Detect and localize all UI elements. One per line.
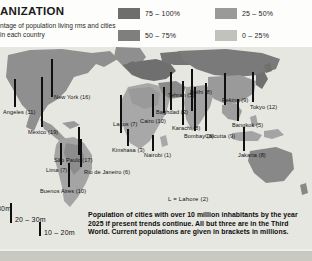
figure-header: ANIZATION ntage of population living rms… (0, 0, 312, 48)
city-label-lima: Lima (7) (46, 167, 67, 173)
city-label-new-york: New York (16) (54, 94, 90, 100)
legend-swatch-75-100 (118, 8, 140, 19)
city-bar (120, 95, 122, 133)
city-label-lagos: Lagos (7) (113, 121, 138, 127)
city-bar (51, 59, 53, 97)
scale-label-10-20m: 10 – 20m (44, 229, 75, 236)
city-label-mexico: Mexico (19) (28, 129, 58, 135)
scale-item-20-30m: 20 – 30m (10, 203, 46, 223)
city-label-nairobi: Nairobi (1) (144, 152, 171, 158)
city-bar (14, 79, 16, 107)
figure-caption: Population of cities with over 10 millio… (88, 211, 310, 237)
legend-swatch-25-50 (215, 8, 237, 19)
city-label-jakarta: Jakarta (8) (238, 152, 266, 158)
city-bar (252, 72, 254, 102)
city-label-sao-paulo: São Paulo (17) (54, 157, 93, 163)
city-label-kinshasa: Kinshasa (3) (112, 147, 145, 153)
city-bar (41, 77, 43, 127)
city-label-rio: Rio de Janeiro (6) (84, 169, 130, 175)
choropleth-legend: 75 – 100% 50 – 75% 25 – 50% 0 – 25% (118, 6, 308, 44)
page-title: ANIZATION (0, 5, 64, 17)
legend-swatch-50-75 (118, 30, 140, 41)
city-label-baghdad: Baghdad (3) (156, 109, 188, 115)
legend-swatch-0-25 (215, 30, 237, 41)
legend-item-0-25: 0 – 25% (215, 30, 269, 41)
lahore-note: L = Lahore (2) (168, 196, 208, 202)
legend-label-0-25: 0 – 25% (242, 32, 269, 39)
city-bar (182, 81, 184, 125)
city-bar (127, 129, 129, 146)
city-bar (152, 94, 154, 117)
figure-subtitle: ntage of population living rms and citie… (0, 22, 118, 39)
city-bar (243, 127, 245, 151)
city-bar (170, 72, 172, 110)
city-label-bangkok: Bangkok (5) (232, 122, 263, 128)
legend-label-25-50: 25 – 50% (242, 10, 273, 17)
city-label-delhi: Delhi (8) (190, 89, 212, 95)
scale-bar-10-20m (39, 222, 41, 236)
urbanization-map-figure: ANIZATION ntage of population living rms… (0, 0, 312, 261)
city-label-karachi: Karachi (8) (172, 125, 200, 131)
scale-bar-20-30m (10, 203, 12, 223)
city-bar (152, 135, 154, 151)
city-label-peking: Peking (9) (222, 97, 249, 103)
legend-label-50-75: 50 – 75% (145, 32, 176, 39)
city-bar (68, 163, 70, 187)
city-label-calcutta: Calcutta (9) (205, 133, 235, 139)
scale-item-10-20m: 10 – 20m (39, 222, 75, 236)
legend-item-75-100: 75 – 100% (118, 8, 180, 19)
legend-item-50-75: 50 – 75% (118, 30, 176, 41)
legend-label-75-100: 75 – 100% (145, 10, 180, 17)
city-label-cairo: Cairo (10) (140, 118, 166, 124)
city-label-tokyo: Tokyo (12) (250, 104, 277, 110)
page-edge-shadow (0, 251, 312, 261)
city-label-angeles: Angeles (11) (3, 109, 36, 115)
legend-item-25-50: 25 – 50% (215, 8, 273, 19)
